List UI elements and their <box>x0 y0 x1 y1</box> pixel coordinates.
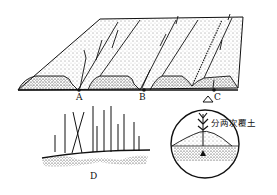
annotation-soil-cover: 分两次覆土 <box>211 116 256 128</box>
cutting-illustration-d <box>42 106 150 167</box>
label-a: A <box>76 93 83 102</box>
label-d: D <box>90 172 97 181</box>
label-c: C <box>214 93 221 102</box>
field-block <box>18 14 243 90</box>
inset-connector <box>203 96 213 102</box>
diagram-canvas: A B C D 分两次覆土 <box>0 0 277 195</box>
label-b: B <box>139 93 146 102</box>
